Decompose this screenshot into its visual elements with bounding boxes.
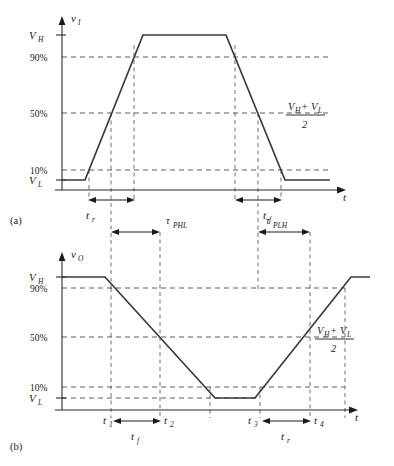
label-tau-phl-sub: PHL bbox=[172, 221, 187, 230]
label-90-percent-b: 90% bbox=[30, 284, 48, 294]
formula-plus-b: + bbox=[330, 325, 337, 336]
dim-arrow-right-tf-b bbox=[153, 418, 161, 424]
formula-denominator-a: 2 bbox=[302, 119, 308, 130]
formula-vl-sub-b: L bbox=[346, 330, 351, 339]
label-vh-sub-a: H bbox=[37, 35, 44, 44]
label-signal-b: v bbox=[71, 248, 76, 260]
label-vl-b: V bbox=[29, 392, 37, 404]
label-tr-sub-b: r bbox=[287, 436, 290, 445]
label-signal-sub-a: I bbox=[77, 18, 81, 27]
formula-plus-a: + bbox=[301, 101, 308, 112]
label-vh-a: V bbox=[29, 29, 37, 41]
label-vh-b: V bbox=[29, 271, 37, 283]
formula-vh-sub-b: H bbox=[323, 330, 330, 339]
label-time-axis-b: t bbox=[355, 411, 359, 423]
label-t2-sub: 2 bbox=[170, 420, 174, 429]
figure-root: V H V L 90% 50% 10% v I t V H + V L 2 bbox=[0, 0, 394, 466]
y-axis-arrow-a bbox=[59, 16, 66, 25]
dimension-fall-time-a: t f bbox=[235, 197, 282, 224]
label-t1-sub: 1 bbox=[109, 420, 113, 429]
label-tr-a: t bbox=[86, 209, 90, 221]
dim-arrow-left-tau-phl bbox=[111, 229, 119, 235]
dimension-rise-time-b: t r bbox=[262, 418, 311, 445]
label-tau-plh: τ bbox=[266, 215, 270, 226]
dim-arrow-left-tr-b bbox=[262, 418, 270, 424]
label-tf-sub-b: f bbox=[137, 436, 140, 445]
label-50-percent-a: 50% bbox=[30, 109, 48, 119]
caption-panel-b: (b) bbox=[10, 441, 23, 453]
label-t1: t bbox=[103, 414, 107, 426]
label-t3: t bbox=[248, 414, 252, 426]
formula-vl-sub-a: L bbox=[317, 106, 322, 115]
label-tau-phl: τ bbox=[166, 215, 170, 226]
dim-arrow-left-tf-a bbox=[235, 197, 243, 203]
label-t4: t bbox=[314, 414, 318, 426]
label-vl-sub-b: L bbox=[37, 398, 42, 407]
label-tr-b: t bbox=[281, 430, 285, 442]
label-tf-b: t bbox=[131, 430, 135, 442]
midpoint-formula-a: V H + V L 2 bbox=[286, 101, 325, 130]
midpoint-formula-b: V H + V L 2 bbox=[315, 325, 354, 354]
dim-arrow-left-tf-b bbox=[113, 418, 121, 424]
panel-b: V H V L 90% 50% 10% v O t V H + V L 2 bbox=[10, 248, 370, 453]
label-90-percent-a: 90% bbox=[30, 53, 48, 63]
dim-arrow-right-tr-b bbox=[303, 418, 311, 424]
dim-arrow-left-tau-plh bbox=[258, 229, 266, 235]
delay-dimensions: τ PHL τ PLH bbox=[111, 215, 310, 337]
label-10-percent-a: 10% bbox=[30, 166, 48, 176]
panel-a: V H V L 90% 50% 10% v I t V H + V L 2 bbox=[10, 12, 347, 240]
label-vl-sub-a: L bbox=[37, 180, 42, 189]
label-tr-sub-a: r bbox=[92, 215, 95, 224]
label-signal-a: v bbox=[71, 12, 76, 24]
dimension-fall-time-b: t f bbox=[113, 418, 161, 445]
label-50-percent-b: 50% bbox=[30, 333, 48, 343]
waveform-figure: V H V L 90% 50% 10% v I t V H + V L 2 bbox=[0, 0, 394, 466]
label-10-percent-b: 10% bbox=[30, 383, 48, 393]
y-axis-arrow-b bbox=[59, 252, 66, 261]
dim-arrow-left-tr-a bbox=[88, 197, 96, 203]
formula-vh-sub-a: H bbox=[294, 106, 301, 115]
caption-panel-a: (a) bbox=[10, 215, 22, 227]
dimension-rise-time-a: t r bbox=[86, 197, 135, 224]
label-tau-plh-sub: PLH bbox=[272, 221, 288, 230]
dim-arrow-right-tf-a bbox=[274, 197, 282, 203]
label-t3-sub: 3 bbox=[253, 420, 258, 429]
dim-arrow-right-tau-plh bbox=[302, 229, 310, 235]
label-t2: t bbox=[164, 414, 168, 426]
label-signal-sub-b: O bbox=[78, 254, 84, 263]
formula-denominator-b: 2 bbox=[331, 343, 337, 354]
label-t4-sub: 4 bbox=[320, 420, 324, 429]
label-time-axis-a: t bbox=[343, 191, 347, 203]
dim-arrow-right-tau-phl bbox=[152, 229, 160, 235]
